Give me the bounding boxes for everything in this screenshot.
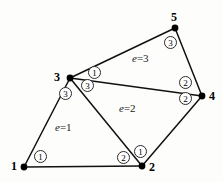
- global-node-label: 4: [209, 90, 215, 102]
- local-node-number: 2: [117, 151, 130, 164]
- local-node-number: 3: [164, 36, 177, 49]
- element-label: e=3: [132, 53, 149, 64]
- element-label-value: 1: [66, 121, 72, 133]
- local-node-number: 1: [88, 66, 101, 79]
- mesh-edge: [70, 28, 175, 78]
- element-label: e=2: [119, 103, 136, 114]
- edge-group: [24, 28, 202, 167]
- global-node-label: 3: [54, 71, 60, 83]
- local-node-number: 3: [81, 79, 94, 92]
- local-node-number: 2: [179, 76, 192, 89]
- local-node-number: 1: [134, 145, 147, 158]
- mesh-node-dot: [21, 164, 28, 171]
- element-label: e=1: [55, 122, 72, 133]
- mesh-edge: [24, 166, 142, 167]
- mesh-node-dot: [172, 25, 179, 32]
- mesh-edge: [70, 78, 142, 166]
- mesh-node-dot: [199, 93, 206, 100]
- global-node-label: 2: [149, 161, 155, 173]
- local-node-number: 1: [34, 150, 47, 163]
- mesh-node-dot: [67, 75, 74, 82]
- node-group: [21, 25, 206, 171]
- element-label-value: 2: [130, 102, 136, 114]
- global-node-label: 5: [171, 11, 177, 23]
- mesh-node-dot: [139, 163, 146, 170]
- local-node-number: 3: [59, 87, 72, 100]
- global-node-label: 1: [11, 160, 17, 172]
- mesh-diagram: 12345e=1e=2e=3123123123: [0, 0, 223, 182]
- element-label-value: 3: [143, 52, 149, 64]
- local-node-number: 2: [179, 92, 192, 105]
- mesh-edge: [142, 96, 202, 166]
